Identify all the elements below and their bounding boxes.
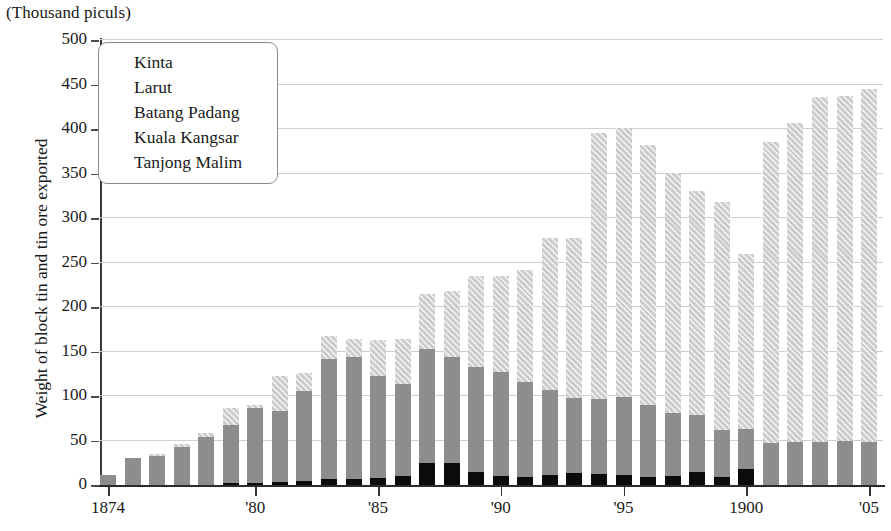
- bar-segment: [444, 357, 460, 463]
- bar-segment: [272, 411, 288, 482]
- bar-segment: [787, 442, 803, 485]
- bar-segment: [738, 429, 754, 469]
- y-tick-label: 150: [62, 341, 88, 361]
- bar[interactable]: [493, 276, 509, 485]
- bar[interactable]: [787, 123, 803, 485]
- bar[interactable]: [640, 145, 656, 485]
- bar[interactable]: [296, 373, 312, 485]
- bar-segment: [321, 336, 337, 358]
- bar-segment: [174, 444, 190, 447]
- bar-segment: [837, 441, 853, 485]
- bar-segment: [395, 339, 411, 384]
- legend-label: Kuala Kangsar: [134, 129, 238, 147]
- bar[interactable]: [566, 238, 582, 485]
- bar-segment: [665, 476, 681, 485]
- legend-swatch-icon: [111, 57, 123, 69]
- bar[interactable]: [272, 376, 288, 485]
- x-tick-mark: [108, 487, 110, 496]
- legend-item-batang-padang[interactable]: Batang Padang: [111, 100, 267, 125]
- bar[interactable]: [198, 433, 214, 485]
- bar[interactable]: [468, 276, 484, 485]
- bar[interactable]: [444, 291, 460, 485]
- bar-segment: [296, 481, 312, 485]
- legend-label: Tanjong Malim: [134, 154, 242, 172]
- bar[interactable]: [419, 294, 435, 485]
- bar-segment: [198, 437, 214, 485]
- x-tick-mark: [378, 487, 380, 496]
- bar-segment: [346, 357, 362, 479]
- legend-label: Kinta: [134, 54, 173, 72]
- bar[interactable]: [812, 97, 828, 485]
- bar-segment: [714, 202, 730, 430]
- x-tick-label: '90: [491, 498, 511, 518]
- x-tick-label: '95: [614, 498, 634, 518]
- x-tick-mark: [501, 487, 503, 496]
- bar-segment: [763, 142, 779, 443]
- bar[interactable]: [517, 270, 533, 485]
- legend-item-larut[interactable]: Larut: [111, 75, 267, 100]
- bar[interactable]: [542, 238, 558, 485]
- legend-item-kinta[interactable]: Kinta: [111, 50, 267, 75]
- bar-segment: [247, 483, 263, 485]
- bar[interactable]: [837, 96, 853, 485]
- bar[interactable]: [346, 339, 362, 485]
- y-tick-label: 400: [62, 118, 88, 138]
- bar[interactable]: [100, 475, 116, 485]
- bar-segment: [493, 276, 509, 372]
- bar-segment: [174, 447, 190, 485]
- bar[interactable]: [714, 202, 730, 485]
- bar-segment: [665, 413, 681, 476]
- bar[interactable]: [665, 173, 681, 485]
- bar[interactable]: [591, 133, 607, 485]
- legend-item-kuala-kangsar[interactable]: Kuala Kangsar: [111, 125, 267, 150]
- x-axis-line: [99, 485, 885, 487]
- bar-segment: [370, 376, 386, 478]
- bar[interactable]: [321, 336, 337, 485]
- bar[interactable]: [616, 128, 632, 485]
- gridline: [100, 39, 883, 40]
- bar-segment: [640, 477, 656, 485]
- bar-segment: [542, 390, 558, 475]
- bar[interactable]: [738, 254, 754, 485]
- bar-segment: [517, 270, 533, 382]
- bar-segment: [149, 454, 165, 456]
- bar[interactable]: [223, 408, 239, 485]
- bar-segment: [223, 408, 239, 426]
- x-tick-label: '85: [368, 498, 388, 518]
- x-tick-label: '80: [245, 498, 265, 518]
- x-tick-mark: [255, 487, 257, 496]
- bar-segment: [566, 398, 582, 474]
- bar-segment: [125, 458, 141, 485]
- bar[interactable]: [395, 339, 411, 485]
- bar-segment: [370, 478, 386, 485]
- bar-segment: [321, 359, 337, 479]
- bar-segment: [493, 372, 509, 476]
- y-tick-label: 200: [62, 296, 88, 316]
- bar[interactable]: [247, 405, 263, 485]
- bar-segment: [296, 373, 312, 391]
- bar-segment: [419, 463, 435, 485]
- bar-segment: [591, 474, 607, 485]
- bar[interactable]: [861, 89, 877, 485]
- legend-label: Larut: [134, 79, 172, 97]
- legend-item-tanjong-malim[interactable]: Tanjong Malim: [111, 150, 267, 175]
- x-tick-label: '05: [859, 498, 879, 518]
- bar[interactable]: [763, 142, 779, 485]
- bar-segment: [321, 479, 337, 485]
- bar-segment: [689, 472, 705, 485]
- y-tick-label: 250: [62, 252, 88, 272]
- x-tick-mark: [624, 487, 626, 496]
- bar-segment: [861, 89, 877, 442]
- y-tick-mark: [91, 441, 99, 443]
- bar-segment: [247, 408, 263, 483]
- bar[interactable]: [174, 444, 190, 485]
- bar[interactable]: [125, 458, 141, 485]
- bar[interactable]: [689, 191, 705, 485]
- bar[interactable]: [149, 454, 165, 485]
- y-tick-label: 0: [79, 474, 88, 494]
- bar[interactable]: [370, 340, 386, 485]
- bar-segment: [837, 96, 853, 441]
- bar-segment: [444, 291, 460, 357]
- bar-segment: [346, 339, 362, 357]
- bar-segment: [640, 405, 656, 477]
